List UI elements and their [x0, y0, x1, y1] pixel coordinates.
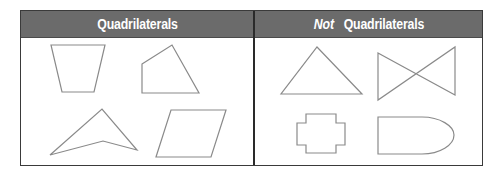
bowtie-shape [378, 47, 455, 100]
irregular-quadrilateral-shape [142, 45, 199, 93]
concave-dart-shape [50, 109, 137, 155]
cross-polygon-shape [297, 114, 345, 153]
parallelogram-shape [156, 110, 226, 157]
trapezoid-shape [51, 45, 105, 92]
bullet-curved-shape [378, 117, 454, 154]
shapes-canvas [0, 0, 503, 178]
triangle-shape [281, 47, 362, 94]
